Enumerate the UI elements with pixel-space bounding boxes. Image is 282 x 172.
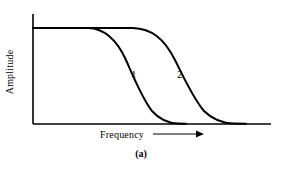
x-axis-label: Frequency: [100, 129, 144, 140]
figure-caption: (a): [0, 148, 282, 159]
y-axis-label: Amplitude: [4, 50, 15, 95]
amplitude-frequency-plot: [0, 0, 282, 172]
arrow-right-icon: [153, 131, 204, 138]
filter-response-figure: Amplitude Frequency 1 2 (a): [0, 0, 282, 172]
curve-label-1: 1: [131, 68, 137, 80]
curve-label-2: 2: [177, 68, 183, 80]
response-curve-2: [33, 28, 246, 124]
